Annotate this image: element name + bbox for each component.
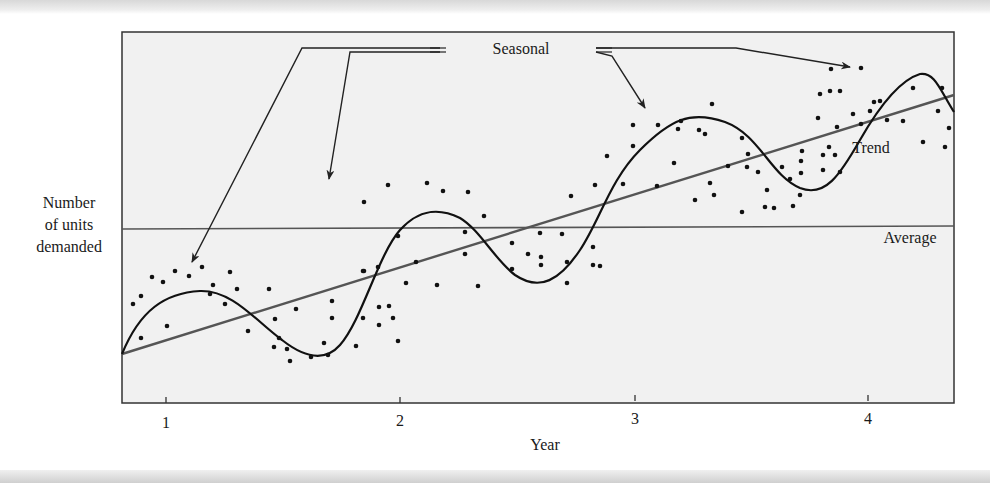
data-point <box>798 193 803 198</box>
data-point <box>859 66 864 71</box>
data-point <box>362 200 367 205</box>
data-point <box>868 109 873 114</box>
data-point <box>322 341 327 346</box>
data-point <box>679 119 684 124</box>
data-point <box>150 275 155 280</box>
data-point <box>780 165 785 170</box>
data-point <box>273 317 278 322</box>
x-tick-4: 4 <box>864 410 872 427</box>
data-point <box>539 263 544 268</box>
data-point <box>885 118 890 123</box>
data-point <box>208 292 213 297</box>
data-point <box>800 149 805 154</box>
data-point <box>387 304 392 309</box>
data-point <box>223 302 228 307</box>
data-point <box>386 183 391 188</box>
x-tick-1: 1 <box>162 414 170 431</box>
data-point <box>943 145 948 150</box>
data-point <box>228 270 233 275</box>
data-point <box>838 89 843 94</box>
data-point <box>376 265 381 270</box>
demand-chart: Seasonal Trend Average 1 2 3 4 Year Numb… <box>0 0 990 483</box>
data-point <box>476 284 481 289</box>
data-point <box>740 136 745 141</box>
data-point <box>463 252 468 257</box>
data-point <box>354 344 359 349</box>
seasonal-label: Seasonal <box>493 40 550 57</box>
data-point <box>829 67 834 72</box>
data-point <box>791 204 796 209</box>
data-point <box>272 345 277 350</box>
data-point <box>404 281 409 286</box>
data-point <box>726 164 731 169</box>
data-point <box>828 89 833 94</box>
data-point <box>872 100 877 105</box>
data-point <box>710 102 715 107</box>
data-point <box>878 99 883 104</box>
trend-label: Trend <box>852 139 890 156</box>
x-tick-3: 3 <box>631 410 639 427</box>
data-point <box>765 188 770 193</box>
data-point <box>330 299 335 304</box>
data-point <box>921 140 926 145</box>
data-point <box>940 86 945 91</box>
data-point <box>605 154 610 159</box>
y-axis-label-line-1: Number <box>43 194 96 211</box>
data-point <box>593 183 598 188</box>
data-point <box>246 329 251 334</box>
data-point <box>656 123 661 128</box>
data-point <box>463 230 468 235</box>
data-point <box>591 245 596 250</box>
data-point <box>538 231 543 236</box>
data-point <box>788 177 793 182</box>
data-point <box>835 125 840 130</box>
data-point <box>539 255 544 260</box>
data-point <box>591 263 596 268</box>
data-point <box>326 353 331 358</box>
data-point <box>285 347 290 352</box>
data-point <box>693 198 698 203</box>
data-point <box>818 92 823 97</box>
data-point <box>712 193 717 198</box>
data-point <box>745 165 750 170</box>
data-point <box>621 182 626 187</box>
data-point <box>901 119 906 124</box>
data-point <box>330 316 335 321</box>
data-point <box>799 171 804 176</box>
data-point <box>746 152 751 157</box>
data-point <box>161 280 166 285</box>
data-point <box>703 132 708 137</box>
data-point <box>510 267 515 272</box>
data-point <box>294 307 299 312</box>
data-point <box>482 214 487 219</box>
data-point <box>756 170 761 175</box>
data-point <box>131 302 136 307</box>
data-point <box>235 287 240 292</box>
data-point <box>655 184 660 189</box>
data-point <box>510 241 515 246</box>
data-point <box>361 316 366 321</box>
data-point <box>425 181 430 186</box>
data-point <box>697 128 702 133</box>
data-point <box>565 281 570 286</box>
data-point <box>396 234 401 239</box>
data-point <box>569 194 574 199</box>
data-point <box>851 112 856 117</box>
data-point <box>187 274 192 279</box>
data-point <box>708 181 713 186</box>
data-point <box>672 161 677 166</box>
data-point <box>377 305 382 310</box>
data-point <box>288 359 293 364</box>
data-point <box>838 170 843 175</box>
data-point <box>676 127 681 132</box>
data-point <box>200 265 205 270</box>
data-point <box>816 116 821 121</box>
average-label: Average <box>884 229 937 247</box>
data-point <box>763 205 768 210</box>
y-axis-label-line-3: demanded <box>36 238 102 255</box>
data-point <box>211 283 216 288</box>
y-axis-label-line-2: of units <box>45 216 93 233</box>
data-point <box>740 210 745 215</box>
data-point <box>560 232 565 237</box>
data-point <box>821 153 826 158</box>
